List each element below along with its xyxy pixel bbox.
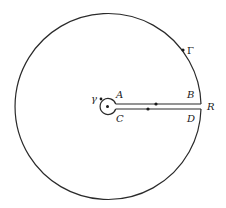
label-b: B (186, 89, 194, 100)
label-r: R (206, 101, 215, 112)
label-gamma-small: γ (91, 93, 97, 104)
origin-point (106, 105, 109, 108)
label-gamma-big: Γ (187, 45, 194, 56)
lower-arrow-marker (146, 107, 149, 110)
label-a: A (115, 89, 123, 100)
small-gamma-marker (100, 98, 103, 101)
keyhole-contour-diagram: Γ γ A B C D R (0, 0, 226, 208)
label-d: D (186, 113, 195, 124)
label-c: C (116, 113, 124, 124)
upper-arrow-marker (154, 102, 157, 105)
gamma-marker (181, 48, 184, 51)
